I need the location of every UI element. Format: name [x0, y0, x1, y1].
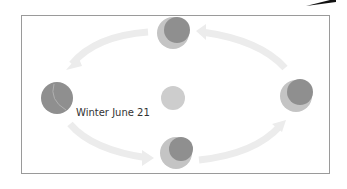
planet-right-icon [280, 79, 313, 112]
arrow-right-to-top [202, 32, 285, 68]
arrowhead-bottom [142, 150, 154, 166]
planet-bottom-icon [160, 137, 193, 169]
corner-wedge-icon [306, 0, 336, 6]
arrow-top-to-left [72, 32, 148, 64]
orbit-diagram [0, 0, 347, 189]
arrowhead-top [196, 24, 206, 40]
arrow-left-to-bottom [70, 124, 148, 158]
arrow-bottom-to-right [199, 126, 280, 160]
winter-label: Winter June 21 [76, 107, 150, 118]
planet-top-icon [157, 17, 190, 49]
planet-left-icon [41, 82, 73, 114]
sun-icon [161, 86, 185, 110]
